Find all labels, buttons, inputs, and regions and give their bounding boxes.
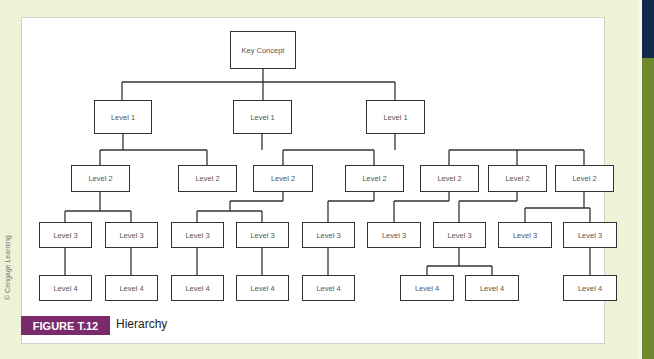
node-label: Level 4 <box>185 284 209 293</box>
key-concept-node: Key Concept <box>230 31 296 69</box>
node-label: Level 2 <box>572 174 596 183</box>
figure-title: Hierarchy <box>116 317 167 331</box>
level-3-node: Level 3 <box>105 222 158 248</box>
level-4-node: Level 4 <box>465 275 519 301</box>
level-4-node: Level 4 <box>302 275 355 301</box>
node-label: Level 3 <box>250 231 274 240</box>
node-label: Level 4 <box>480 284 504 293</box>
level-4-node: Level 4 <box>171 275 224 301</box>
node-label: Level 3 <box>447 231 471 240</box>
node-label: Level 4 <box>53 284 77 293</box>
level-2-node: Level 2 <box>420 165 479 192</box>
level-2-node: Level 2 <box>488 165 547 192</box>
level-3-node: Level 3 <box>367 222 421 248</box>
level-1-node: Level 1 <box>94 100 152 134</box>
node-label: Level 4 <box>316 284 340 293</box>
node-label: Level 4 <box>250 284 274 293</box>
level-2-node: Level 2 <box>253 165 313 192</box>
node-label: Level 3 <box>382 231 406 240</box>
node-label: Level 2 <box>362 174 386 183</box>
node-label: Level 3 <box>53 231 77 240</box>
level-3-node: Level 3 <box>302 222 355 248</box>
copyright-credit: © Cengage Learning <box>4 235 11 300</box>
level-3-node: Level 3 <box>39 222 92 248</box>
node-label: Level 2 <box>437 174 461 183</box>
level-4-node: Level 4 <box>39 275 92 301</box>
node-label: Level 4 <box>119 284 143 293</box>
level-4-node: Level 4 <box>400 275 454 301</box>
level-1-node: Level 1 <box>233 100 292 134</box>
node-label: Level 2 <box>88 174 112 183</box>
level-4-node: Level 4 <box>563 275 617 301</box>
node-label: Level 1 <box>383 113 407 122</box>
level-4-node: Level 4 <box>236 275 289 301</box>
node-label: Level 3 <box>316 231 340 240</box>
node-label: Key Concept <box>242 46 285 55</box>
node-label: Level 3 <box>513 231 537 240</box>
level-2-node: Level 2 <box>345 165 404 192</box>
level-3-node: Level 3 <box>498 222 552 248</box>
node-label: Level 2 <box>195 174 219 183</box>
level-3-node: Level 3 <box>236 222 289 248</box>
node-label: Level 4 <box>578 284 602 293</box>
node-label: Level 2 <box>271 174 295 183</box>
node-label: Level 1 <box>250 113 274 122</box>
node-label: Level 3 <box>185 231 209 240</box>
level-2-node: Level 2 <box>178 165 237 192</box>
node-label: Level 4 <box>415 284 439 293</box>
level-1-node: Level 1 <box>366 100 425 134</box>
node-label: Level 3 <box>119 231 143 240</box>
level-3-node: Level 3 <box>563 222 617 248</box>
figure-label: FIGURE T.12 <box>21 316 110 335</box>
level-4-node: Level 4 <box>105 275 158 301</box>
level-3-node: Level 3 <box>171 222 224 248</box>
node-label: Level 1 <box>111 113 135 122</box>
level-2-node: Level 2 <box>555 165 614 192</box>
node-label: Level 2 <box>505 174 529 183</box>
level-3-node: Level 3 <box>433 222 486 248</box>
node-label: Level 3 <box>578 231 602 240</box>
level-2-node: Level 2 <box>71 165 130 192</box>
